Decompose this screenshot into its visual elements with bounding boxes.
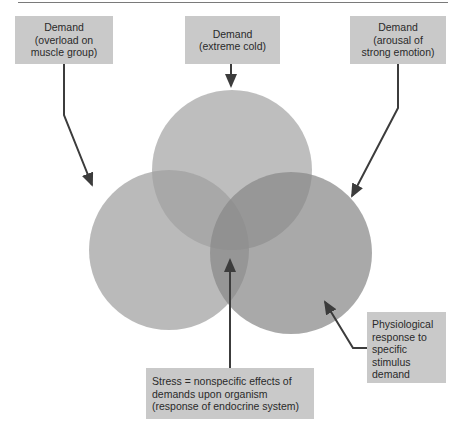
demand-detail: muscle group): [31, 46, 98, 59]
response-line: specific: [372, 343, 441, 356]
response-line: stimulus: [372, 356, 441, 369]
response-line: response to: [372, 331, 441, 344]
demand-label: Demand: [44, 21, 84, 34]
circle-strong-emotion: [210, 172, 372, 334]
response-line: demand: [372, 368, 441, 381]
demand-box-muscle: Demand (overload on muscle group): [15, 16, 113, 64]
demand-detail: (arousal of: [373, 34, 423, 47]
demand-label: Demand: [378, 21, 418, 34]
demand-detail: (extreme cold): [199, 40, 266, 53]
arrow-right-demand: [352, 64, 398, 196]
demand-detail: strong emotion): [362, 46, 435, 59]
demand-detail: (overload on: [35, 34, 93, 47]
stress-line: Stress = nonspecific effects of: [152, 375, 308, 388]
stress-box: Stress = nonspecific effects of demands …: [146, 368, 314, 419]
response-line: Physiological: [372, 318, 441, 331]
demand-label: Demand: [213, 28, 253, 41]
demand-box-emotion: Demand (arousal of strong emotion): [350, 16, 446, 64]
response-box: Physiological response to specific stimu…: [367, 312, 446, 383]
stress-line: (response of endocrine system): [152, 400, 308, 413]
demand-box-cold: Demand (extreme cold): [185, 16, 280, 64]
arrow-left-demand: [64, 64, 92, 185]
stress-line: demands upon organism: [152, 388, 308, 401]
